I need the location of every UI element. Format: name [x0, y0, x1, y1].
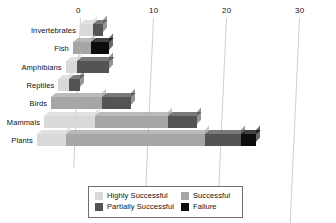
bar-segment-top — [66, 130, 209, 134]
bar-segment[interactable] — [37, 134, 66, 146]
bar-segment-face — [73, 42, 91, 54]
bar-segment-face — [205, 134, 242, 146]
legend-label-failure: Failure — [193, 202, 217, 211]
legend-swatch-failure — [181, 203, 189, 211]
legend-item-failure[interactable]: Failure — [181, 202, 217, 211]
chart-canvas: 0102030 InvertebratesFishAmphibiansRepti… — [0, 0, 336, 223]
bar-row — [0, 97, 336, 109]
legend-row: Highly Successful Successful — [95, 191, 236, 200]
bar-segment-top — [44, 112, 100, 116]
bar-segment-face — [77, 61, 110, 73]
bar-segment-face — [58, 79, 69, 91]
legend-swatch-successful — [181, 192, 189, 200]
bar-segment[interactable] — [73, 42, 91, 54]
bar-segment-side — [80, 70, 84, 86]
bar-row — [0, 24, 336, 36]
bar-segment[interactable] — [102, 97, 131, 109]
bar-segment[interactable] — [80, 24, 93, 36]
x-tick-label-20: 20 — [222, 6, 231, 15]
bar-segment-top — [51, 93, 107, 97]
bar-segment-face — [168, 116, 197, 128]
bar-segment-face — [51, 97, 102, 109]
bar-row — [0, 116, 336, 128]
legend-item-highly-successful[interactable]: Highly Successful — [95, 191, 181, 200]
bar-segment-side — [256, 125, 260, 141]
x-tick-label-0: 0 — [76, 6, 81, 15]
bar-segment-face — [91, 42, 109, 54]
legend-swatch-partially-successful — [95, 203, 103, 211]
bar-segment[interactable] — [241, 134, 256, 146]
bar-segment-side — [103, 16, 107, 32]
bar-segment[interactable] — [69, 79, 80, 91]
bar-segment[interactable] — [66, 134, 205, 146]
bar-row — [0, 61, 336, 73]
x-tick-label-30: 30 — [295, 6, 304, 15]
bar-segment[interactable] — [58, 79, 69, 91]
bar-segment[interactable] — [51, 97, 102, 109]
legend-swatch-highly-successful — [95, 192, 103, 200]
bar-row — [0, 134, 336, 146]
bar-segment-face — [69, 79, 80, 91]
bar-segment-side — [131, 89, 135, 105]
legend-label-partially-successful: Partially Successful — [107, 202, 174, 211]
legend-label-highly-successful: Highly Successful — [107, 191, 168, 200]
x-tick-label-10: 10 — [149, 6, 158, 15]
bar-segment[interactable] — [77, 61, 110, 73]
bar-segment-face — [37, 134, 66, 146]
bar-segment-face — [102, 97, 131, 109]
bar-segment[interactable] — [205, 134, 242, 146]
bar-row — [0, 79, 336, 91]
legend-item-successful[interactable]: Successful — [181, 191, 230, 200]
bar-segment-face — [241, 134, 256, 146]
bar-segment-side — [109, 52, 113, 68]
legend-row: Partially Successful Failure — [95, 202, 236, 211]
bar-segment-side — [197, 107, 201, 123]
legend-label-successful: Successful — [193, 191, 230, 200]
bar-segment[interactable] — [95, 116, 168, 128]
legend-item-partially-successful[interactable]: Partially Successful — [95, 202, 181, 211]
bar-segment-face — [80, 24, 93, 36]
bar-segment-top — [95, 112, 173, 116]
bar-segment[interactable] — [168, 116, 197, 128]
chart-legend: Highly Successful Successful Partially S… — [88, 186, 243, 218]
bar-segment[interactable] — [91, 42, 109, 54]
bar-segment-top — [205, 130, 246, 134]
bar-segment-face — [66, 134, 205, 146]
bar-segment-face — [95, 116, 168, 128]
bar-row — [0, 42, 336, 54]
bar-segment-side — [109, 34, 113, 50]
